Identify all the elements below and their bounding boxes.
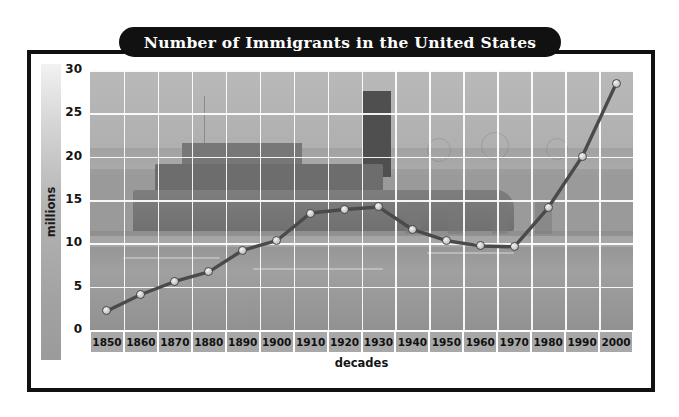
y-axis-tick-label: 15 [56, 192, 82, 206]
x-axis-separator [428, 332, 430, 352]
x-axis-tick-label: 1920 [329, 332, 361, 352]
data-point-marker [544, 203, 553, 212]
data-point-marker [510, 242, 519, 251]
x-axis-tick-label: 1990 [566, 332, 598, 352]
data-point-marker [340, 205, 349, 214]
page-title: Number of Immigrants in the United State… [144, 33, 537, 52]
x-axis-tick-label: 1940 [396, 332, 428, 352]
x-axis-tick-label: 1970 [498, 332, 530, 352]
x-axis-tick-label: 1960 [464, 332, 496, 352]
data-series-line [90, 70, 633, 330]
data-point-marker [442, 236, 451, 245]
data-point-marker [578, 152, 587, 161]
x-axis-separator [225, 332, 227, 352]
x-axis-separator [462, 332, 464, 352]
x-axis-title: decades [90, 356, 633, 370]
data-point-marker [306, 209, 315, 218]
y-axis-tick-label: 20 [56, 149, 82, 163]
x-axis-tick-label: 1930 [363, 332, 395, 352]
y-axis-tick-label: 10 [56, 235, 82, 249]
x-axis-separator [394, 332, 396, 352]
x-axis-tick-label: 1950 [430, 332, 462, 352]
x-axis-tick-label: 1880 [193, 332, 225, 352]
x-axis-tick-label: 1910 [295, 332, 327, 352]
chart-title-badge: Number of Immigrants in the United State… [119, 27, 561, 57]
y-axis-tick-label: 0 [56, 322, 82, 336]
x-axis-tick-label: 1850 [91, 332, 123, 352]
x-axis-separator [361, 332, 363, 352]
data-point-marker [612, 79, 621, 88]
x-axis-separator [293, 332, 295, 352]
x-axis-tick-label: 1890 [227, 332, 259, 352]
x-axis-separator [530, 332, 532, 352]
x-axis-tick-label: 1870 [159, 332, 191, 352]
x-axis-separator [598, 332, 600, 352]
chart-figure: Number of Immigrants in the United State… [0, 0, 679, 417]
x-axis-separator [123, 332, 125, 352]
plot-area [90, 70, 633, 330]
y-axis-tick-label: 30 [56, 62, 82, 76]
x-axis-tick-labels: 1850186018701880189019001910192019301940… [90, 332, 633, 352]
x-axis-separator [191, 332, 193, 352]
x-axis-tick-label: 1900 [261, 332, 293, 352]
x-axis-separator [496, 332, 498, 352]
x-axis-separator [259, 332, 261, 352]
data-point-marker [408, 225, 417, 234]
x-axis-separator [157, 332, 159, 352]
x-axis-separator [564, 332, 566, 352]
x-axis-tick-label: 1980 [532, 332, 564, 352]
x-axis-tick-label: 1860 [125, 332, 157, 352]
x-axis-separator [327, 332, 329, 352]
y-axis-tick-label: 5 [56, 279, 82, 293]
y-axis-tick-label: 25 [56, 105, 82, 119]
data-point-marker [238, 246, 247, 255]
x-axis-tick-label: 2000 [600, 332, 632, 352]
